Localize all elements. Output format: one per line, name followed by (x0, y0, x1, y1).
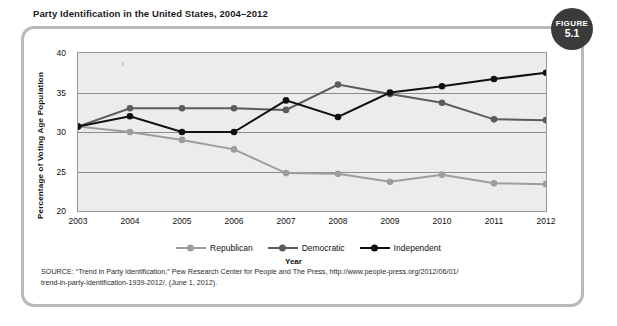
x-axis-tick-label: 2004 (108, 216, 152, 226)
x-axis-tick-label: 2010 (420, 216, 464, 226)
data-point (127, 129, 134, 136)
data-point (231, 146, 238, 153)
figure-number-badge: FIGURE 5.1 (551, 8, 593, 50)
legend-item-republican[interactable]: Republican (176, 243, 253, 253)
data-point (491, 76, 498, 83)
data-point (491, 116, 498, 123)
figure-badge-number: 5.1 (565, 28, 580, 39)
data-point (543, 117, 546, 124)
series-layer (78, 53, 546, 211)
x-axis-tick-label: 2011 (472, 216, 516, 226)
x-axis-title: Year (285, 257, 302, 266)
data-point (283, 97, 290, 104)
data-point (231, 129, 238, 136)
series-line (78, 126, 546, 184)
data-point (491, 180, 498, 187)
series-independent (78, 69, 546, 135)
legend-swatch (176, 247, 206, 250)
data-point (127, 105, 134, 112)
x-axis-tick-label: 2006 (212, 216, 256, 226)
legend-swatch (360, 247, 390, 250)
print-speck (122, 62, 124, 66)
data-point (543, 181, 546, 188)
legend-item-democratic[interactable]: Democratic (268, 243, 345, 253)
legend-label: Independent (394, 243, 441, 253)
plot-area (77, 52, 547, 212)
x-axis-tick-label: 2009 (368, 216, 412, 226)
y-axis-tick-label: 20 (40, 206, 66, 216)
data-point (127, 113, 134, 120)
data-point (283, 170, 290, 177)
data-point (335, 171, 342, 178)
data-point (283, 107, 290, 114)
y-axis-tick-label: 25 (40, 167, 66, 177)
y-axis-tick-label: 40 (40, 48, 66, 58)
legend-label: Republican (210, 243, 253, 253)
chart-legend: RepublicanDemocraticIndependent (0, 243, 617, 253)
data-point (179, 105, 186, 112)
data-point (439, 171, 446, 178)
data-point (387, 89, 394, 96)
x-axis-tick-label: 2005 (160, 216, 204, 226)
x-axis-tick-label: 2003 (56, 216, 100, 226)
y-axis-tick-label: 35 (40, 88, 66, 98)
legend-item-independent[interactable]: Independent (360, 243, 441, 253)
series-line (78, 73, 546, 132)
source-line-1: SOURCE: “Trend in Party Identification,”… (41, 266, 561, 277)
x-axis-tick-label: 2007 (264, 216, 308, 226)
source-note: SOURCE: “Trend in Party Identification,”… (41, 266, 561, 288)
legend-marker-icon (371, 245, 378, 252)
data-point (439, 99, 446, 106)
legend-marker-icon (279, 245, 286, 252)
data-point (439, 83, 446, 90)
data-point (78, 123, 81, 130)
series-republican (78, 123, 546, 187)
x-axis-tick-label: 2008 (316, 216, 360, 226)
data-point (231, 105, 238, 112)
x-axis-tick-label: 2012 (524, 216, 568, 226)
data-point (335, 81, 342, 88)
series-line (78, 85, 546, 127)
legend-label: Democratic (302, 243, 345, 253)
source-line-2: trend-in-party-identification-1939-2012/… (41, 277, 561, 288)
data-point (387, 178, 394, 185)
y-axis-tick-label: 30 (40, 127, 66, 137)
data-point (335, 114, 342, 121)
legend-swatch (268, 247, 298, 250)
data-point (543, 69, 546, 76)
legend-marker-icon (187, 245, 194, 252)
data-point (179, 129, 186, 136)
data-point (179, 137, 186, 144)
